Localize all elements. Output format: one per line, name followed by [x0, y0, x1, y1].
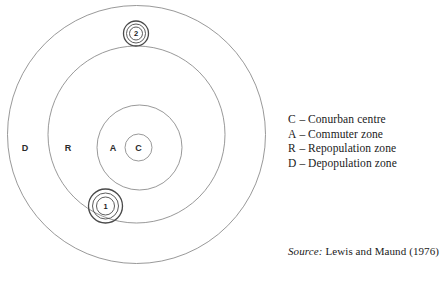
- legend-name-D: Depopulation zone: [308, 157, 397, 169]
- legend-item-D: D–Depopulation zone: [288, 156, 438, 171]
- figure-container: D R A C 2 1 C–Conurban centre A–Commuter…: [0, 0, 441, 284]
- legend-item-A: A–Commuter zone: [288, 127, 438, 142]
- legend-item-C: C–Conurban centre: [288, 112, 438, 127]
- legend-dash-D: –: [297, 156, 308, 171]
- source-label: Source:: [288, 245, 323, 257]
- zone-label-C: C: [135, 143, 142, 153]
- source-text: Lewis and Maund (1976): [325, 245, 439, 257]
- zone-label-D: D: [22, 143, 29, 153]
- marker-1: 1: [89, 189, 123, 223]
- legend-key-D: D: [288, 156, 297, 171]
- legend-name-C: Conurban centre: [308, 113, 386, 125]
- legend-key-A: A: [288, 127, 297, 142]
- source-attribution: Source: Lewis and Maund (1976): [288, 245, 439, 257]
- legend: C–Conurban centre A–Commuter zone R–Repo…: [288, 112, 438, 170]
- legend-name-A: Commuter zone: [308, 128, 383, 140]
- zone-label-R: R: [65, 143, 72, 153]
- legend-dash-R: –: [297, 141, 308, 156]
- legend-dash-C: –: [297, 112, 308, 127]
- marker-2-label: 2: [134, 29, 138, 38]
- legend-key-C: C: [288, 112, 297, 127]
- legend-key-R: R: [288, 141, 297, 156]
- marker-1-label: 1: [103, 202, 107, 211]
- legend-item-R: R–Repopulation zone: [288, 141, 438, 156]
- legend-name-R: Repopulation zone: [308, 142, 396, 154]
- legend-dash-A: –: [297, 127, 308, 142]
- zone-label-A: A: [110, 143, 117, 153]
- concentric-zone-diagram: D R A C 2 1: [0, 0, 290, 284]
- marker-2: 2: [124, 21, 149, 46]
